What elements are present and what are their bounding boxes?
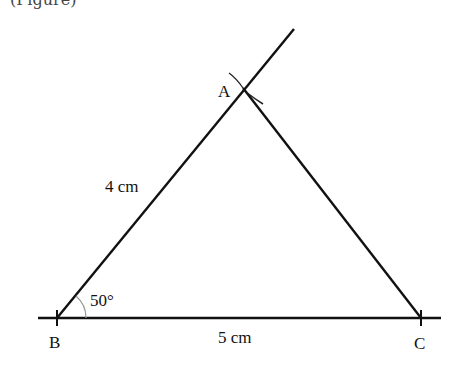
vertex-label-a: A [218, 82, 231, 101]
compass-arc-a1 [229, 73, 243, 88]
vertex-label-c: C [414, 334, 425, 353]
side-label-bc: 5 cm [218, 328, 252, 347]
angle-label-b: 50° [90, 291, 114, 310]
angle-arc-b [76, 296, 86, 318]
ray-ba [57, 29, 294, 318]
side-ac [243, 88, 421, 318]
side-label-ab: 4 cm [105, 177, 139, 196]
vertex-label-b: B [49, 333, 60, 352]
triangle-diagram: A B C 4 cm 5 cm 50° [0, 0, 457, 373]
